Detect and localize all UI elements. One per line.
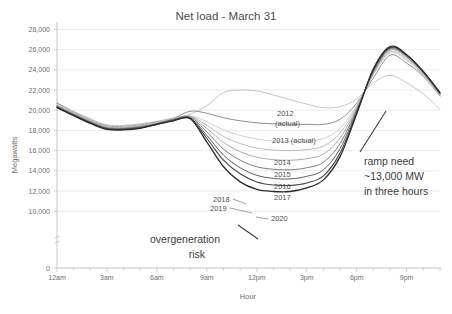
- y-tick-22000: 22,000: [29, 87, 51, 94]
- series-line-2012-actual-: [57, 75, 440, 125]
- series-line-2015: [57, 51, 440, 151]
- x-axis-tick-labels: 12am 3am 6am 9am 12pm 3pm 6pm 9pm: [48, 274, 413, 282]
- annotation-ramp-need: ramp need ~13,000 MW in three hours: [360, 111, 428, 197]
- annotation-overgeneration-risk: overgeneration risk: [150, 225, 258, 260]
- y-tick-24000: 24,000: [29, 66, 51, 73]
- y-tick-12000: 12,000: [29, 188, 51, 195]
- series-line-2017: [57, 49, 440, 170]
- x-tick-3pm: 3pm: [300, 274, 314, 282]
- y-tick-28000: 28,000: [29, 26, 51, 33]
- series-line-2016: [57, 50, 440, 161]
- y-tick-26000: 26,000: [29, 46, 51, 53]
- y-tick-10000: 10,000: [29, 208, 51, 215]
- y-axis-tick-labels: 28,000 26,000 24,000 22,000 20,000 18,00…: [29, 26, 51, 272]
- y-tick-14000: 14,000: [29, 167, 51, 174]
- ramp-need-line-3: in three hours: [364, 185, 428, 197]
- x-tick-12am: 12am: [48, 274, 66, 281]
- y-tick-zero: 0: [46, 265, 50, 272]
- series-label-2020: 2020: [271, 214, 288, 223]
- series-label-2019: 2019: [210, 204, 227, 213]
- chart-canvas: Net load - March 31: [0, 0, 452, 314]
- y-tick-18000: 18,000: [29, 127, 51, 134]
- overgeneration-risk-line-2: risk: [189, 248, 206, 260]
- series-label-2015: 2015: [274, 170, 291, 179]
- y-tick-20000: 20,000: [29, 107, 51, 114]
- ramp-need-line-1: ramp need: [364, 155, 414, 167]
- series-label-2012-sub: (actual): [275, 119, 301, 128]
- series-label-2016: 2016: [274, 182, 291, 191]
- y-axis-title: Megawatts: [10, 137, 19, 174]
- series-label-2012: 2012: [277, 109, 294, 118]
- x-tick-9pm: 9pm: [400, 274, 414, 282]
- series-label-2014: 2014: [274, 158, 291, 167]
- series-label-2013: 2013 (actual): [272, 136, 316, 145]
- chart-title: Net load - March 31: [176, 10, 277, 22]
- series-label-leaders: [230, 199, 268, 219]
- series-inline-labels: 2012 (actual) 2013 (actual) 2014 2015 20…: [210, 109, 316, 223]
- net-load-duck-curve-chart: Net load - March 31: [0, 0, 452, 314]
- x-tick-3am: 3am: [100, 274, 114, 281]
- x-tick-marks: [57, 268, 440, 272]
- x-tick-12pm: 12pm: [248, 274, 266, 282]
- overgeneration-risk-line-1: overgeneration: [150, 233, 220, 245]
- series-label-2017: 2017: [274, 193, 291, 202]
- series-label-2018: 2018: [213, 195, 230, 204]
- x-tick-9am: 9am: [200, 274, 214, 281]
- ramp-need-line-2: ~13,000 MW: [364, 170, 424, 182]
- x-axis-title: Hour: [240, 292, 257, 301]
- x-tick-6pm: 6pm: [350, 274, 364, 282]
- y-tick-16000: 16,000: [29, 147, 51, 154]
- x-tick-6am: 6am: [150, 274, 164, 281]
- y-tick-marks: [54, 29, 57, 268]
